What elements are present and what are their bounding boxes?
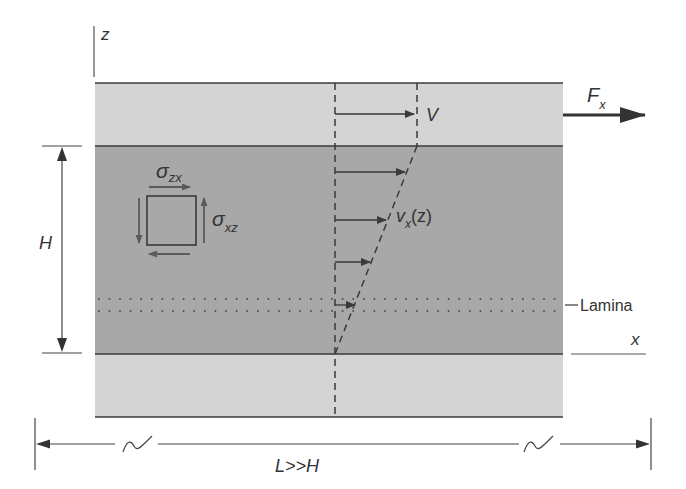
z-axis: z: [94, 25, 110, 77]
lamina-label: Lamina: [580, 297, 633, 314]
length-dimension: L>>H: [35, 418, 651, 476]
z-axis-label: z: [100, 25, 110, 44]
couette-flow-diagram: z Lamina V vx(z) Fx: [0, 0, 686, 489]
height-dimension: H: [39, 146, 82, 353]
height-label: H: [39, 233, 53, 253]
break-symbol-right: [524, 436, 553, 452]
x-axis-label: x: [630, 330, 640, 349]
break-symbol-left: [123, 436, 152, 452]
plate-velocity-label: V: [426, 105, 440, 125]
length-label: L>>H: [275, 456, 320, 476]
top-plate: [95, 83, 563, 146]
force-label: Fx: [587, 84, 606, 112]
bottom-plate: [95, 354, 563, 417]
x-axis: x: [571, 330, 646, 354]
